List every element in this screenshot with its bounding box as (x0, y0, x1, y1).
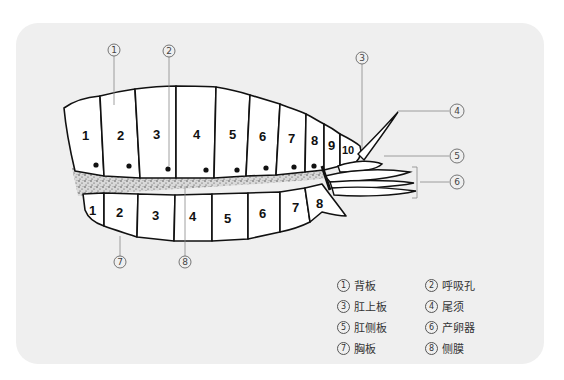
callout-7: 7 (117, 257, 123, 267)
legend-label: 侧膜 (442, 340, 464, 356)
legend-number: 4 (425, 300, 438, 313)
legend-number: 1 (337, 279, 350, 292)
legend-label: 胸板 (354, 340, 376, 356)
tergites (64, 86, 361, 178)
sternite-number: 7 (292, 200, 299, 215)
tergite-number: 6 (259, 129, 266, 144)
legend-label: 呼吸孔 (442, 277, 475, 293)
legend-item: 4 尾须 (425, 298, 525, 314)
sternite-number: 5 (224, 211, 231, 226)
legend-number: 8 (425, 342, 438, 355)
ovipositor (325, 170, 416, 196)
legend: 1 背板 2 呼吸孔 3 肛上板 4 尾须 5 肛侧板 6 产卵器 7 胸板 8… (337, 277, 537, 356)
legend-label: 背板 (354, 277, 376, 293)
legend-number: 6 (425, 321, 438, 334)
callout-6: 6 (454, 177, 460, 187)
legend-number: 5 (337, 321, 350, 334)
callout-8: 8 (182, 257, 188, 267)
legend-number: 7 (337, 342, 350, 355)
tergite-number: 9 (328, 138, 335, 153)
tergite-number: 3 (153, 127, 160, 142)
legend-item: 3 肛上板 (337, 298, 425, 314)
callout-4: 4 (454, 106, 460, 116)
sternite-number: 2 (116, 205, 123, 220)
sternite-number: 4 (189, 209, 197, 224)
tergite-number: 2 (117, 128, 124, 143)
legend-label: 肛上板 (354, 298, 387, 314)
tergite-number: 8 (311, 133, 318, 148)
legend-item: 8 侧膜 (425, 340, 525, 356)
sternite-number: 6 (259, 206, 266, 221)
tergite-number: 5 (229, 127, 236, 142)
legend-item: 7 胸板 (337, 340, 425, 356)
callout-3: 3 (359, 53, 365, 63)
tergite-number: 4 (193, 127, 201, 142)
tergite-number: 1 (82, 128, 89, 143)
legend-label: 肛侧板 (354, 319, 387, 335)
sternite-number: 3 (152, 208, 159, 223)
legend-item: 1 背板 (337, 277, 425, 293)
callout-2: 2 (166, 46, 172, 56)
callout-5: 5 (454, 151, 460, 161)
cercus (358, 112, 398, 160)
legend-item: 6 产卵器 (425, 319, 525, 335)
legend-label: 产卵器 (442, 319, 475, 335)
sternite-number: 8 (316, 196, 323, 211)
legend-item: 2 呼吸孔 (425, 277, 525, 293)
legend-label: 尾须 (442, 298, 464, 314)
callout-1: 1 (111, 45, 117, 55)
tergite-number: 10 (342, 144, 354, 156)
legend-number: 2 (425, 279, 438, 292)
legend-item: 5 肛侧板 (337, 319, 425, 335)
sternite-number: 1 (89, 203, 96, 218)
tergite-number: 7 (288, 131, 295, 146)
legend-number: 3 (337, 300, 350, 313)
